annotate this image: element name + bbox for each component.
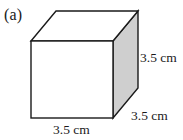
- dimension-label-height: 3.5 cm: [140, 51, 177, 65]
- cube-front-face: [31, 41, 113, 118]
- dimension-label-depth: 3.5 cm: [131, 109, 168, 123]
- panel-label: (a): [4, 7, 22, 23]
- dimension-label-width: 3.5 cm: [53, 123, 90, 137]
- cube-figure: (a) 3.5 cm 3.5 cm 3.5 cm: [0, 0, 183, 140]
